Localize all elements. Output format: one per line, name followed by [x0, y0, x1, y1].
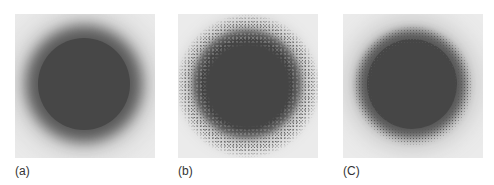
panel-a-image — [15, 14, 155, 158]
panel-b-label: (b) — [178, 164, 193, 178]
panel-c-image — [343, 14, 483, 158]
noise-texture — [178, 14, 318, 158]
panel-c-label: (C) — [343, 164, 360, 178]
panel-a-label: (a) — [15, 164, 30, 178]
panel-b-image — [178, 14, 318, 158]
grain-texture — [343, 14, 483, 158]
blurred-disk — [38, 38, 130, 130]
